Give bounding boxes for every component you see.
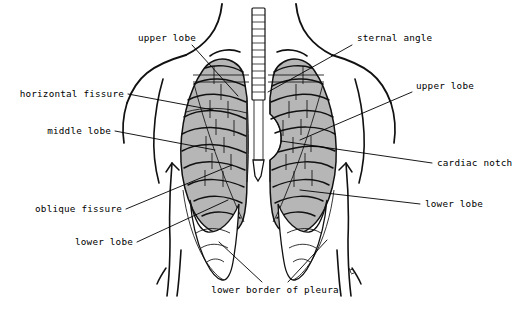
label-sternal-angle: sternal angle	[357, 32, 433, 43]
label-middle-lobe: middle lobe	[47, 125, 111, 136]
thorax-anatomy-diagram: upper lobe sternal angle horizontal fiss…	[0, 0, 517, 318]
label-lower-lobe-right: lower lobe	[425, 198, 483, 209]
label-lower-lobe-left: lower lobe	[75, 236, 133, 247]
label-lower-border-of-pleura: lower border of pleura	[211, 284, 339, 295]
label-oblique-fissure: oblique fissure	[35, 203, 122, 214]
xiphoid-process	[253, 160, 264, 181]
label-horizontal-fissure: horizontal fissure	[20, 88, 125, 99]
trachea	[252, 8, 265, 160]
diagram-canvas: upper lobe sternal angle horizontal fiss…	[0, 0, 517, 318]
label-upper-lobe-right: upper lobe	[416, 80, 474, 91]
label-cardiac-notch: cardiac notch	[437, 157, 512, 168]
label-upper-lobe-left: upper lobe	[138, 32, 196, 43]
